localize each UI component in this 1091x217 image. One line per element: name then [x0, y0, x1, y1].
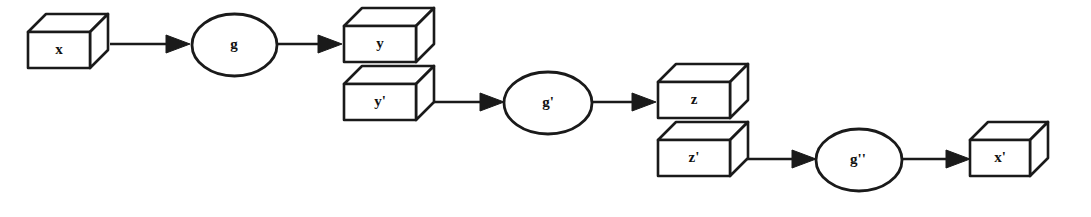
- node-label-g-prime: g': [542, 94, 554, 110]
- edge-gprime-to-z: [592, 93, 656, 111]
- node-label-x: x: [55, 41, 63, 57]
- node-ellipse-g-prime[interactable]: g': [504, 72, 592, 134]
- node-ellipse-g-double-prime[interactable]: g'': [816, 129, 902, 191]
- node-label-z: z: [691, 91, 698, 107]
- diagram-canvas: x g y y' g' z: [0, 0, 1091, 217]
- node-ellipse-g[interactable]: g: [192, 14, 277, 76]
- node-label-y-prime: y': [374, 93, 386, 109]
- edge-x-to-g: [110, 35, 190, 53]
- node-cube-x-prime[interactable]: x': [970, 122, 1048, 176]
- node-cube-y[interactable]: y: [344, 8, 434, 62]
- node-cube-z-prime[interactable]: z': [658, 122, 748, 176]
- node-label-z-prime: z': [689, 149, 700, 165]
- edge-gdoubleprime-to-xprime: [902, 150, 970, 168]
- node-label-y: y: [376, 35, 384, 51]
- node-label-g-double-prime: g'': [850, 151, 866, 167]
- edge-g-to-y: [277, 35, 342, 53]
- node-cube-y-prime[interactable]: y': [344, 66, 434, 120]
- node-label-x-prime: x': [994, 149, 1006, 165]
- node-label-g: g: [230, 36, 238, 52]
- flow-diagram: x g y y' g' z: [0, 0, 1091, 217]
- node-cube-z[interactable]: z: [658, 64, 748, 118]
- node-cube-x[interactable]: x: [28, 14, 108, 68]
